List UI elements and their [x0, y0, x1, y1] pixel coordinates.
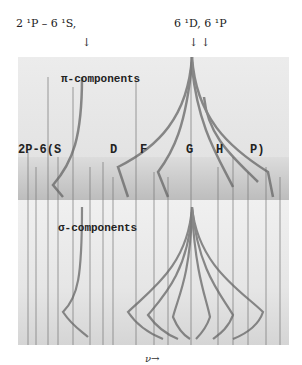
- series-label-p: P): [250, 143, 264, 157]
- x-axis-label: ν→: [145, 353, 159, 364]
- transition-label-right: 6 ¹D, 6 ¹P: [174, 17, 227, 30]
- series-label-g: G: [186, 143, 193, 157]
- arrow-down-icon: ↓: [82, 37, 91, 48]
- arrow-down-icon: ↓: [189, 37, 198, 48]
- spectral-lines: [18, 57, 289, 345]
- sigma-components-label: σ-components: [58, 222, 137, 234]
- transition-label-left: 2 ¹P – 6 ¹S,: [16, 17, 76, 30]
- series-label-d: D: [110, 143, 117, 157]
- series-label-s: 2P-6(S: [18, 143, 61, 157]
- photographic-plate: π-components σ-components: [18, 57, 289, 345]
- arrow-down-icon: ↓: [201, 37, 210, 48]
- pi-components-label: π-components: [61, 73, 140, 85]
- series-label-h: H: [216, 143, 223, 157]
- series-label-f: F: [140, 143, 147, 157]
